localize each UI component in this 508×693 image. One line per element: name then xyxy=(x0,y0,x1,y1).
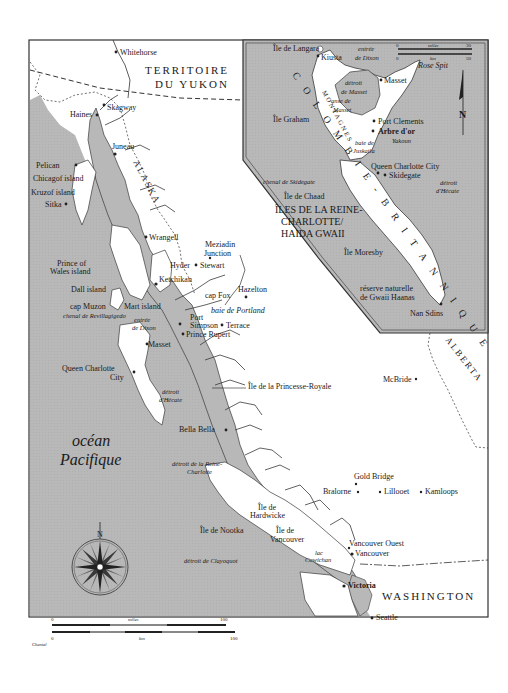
scale-miles-label: miles xyxy=(128,617,139,622)
label-haida-2: CHARLOTTE/ xyxy=(281,216,343,227)
main-scale-bar: 0 miles 100 0 km 100 xyxy=(51,617,238,641)
label-victoria: Victoria xyxy=(348,581,376,590)
inset-scale-km-end: 50 xyxy=(466,56,472,61)
label-baie-portland: baie de Portland xyxy=(211,306,266,315)
label-hecate-inset-2: d'Hécate xyxy=(436,187,459,194)
label-bralorne: Bralorne xyxy=(323,487,351,496)
inset-scale-miles-label: miles xyxy=(428,43,439,48)
label-pelican: Pelican xyxy=(36,161,60,170)
label-sitka: Sitka xyxy=(45,200,62,209)
label-gold-bridge: Gold Bridge xyxy=(354,472,394,481)
label-langara: Île de Langara xyxy=(273,43,320,53)
compass-north-label: N xyxy=(97,530,103,539)
label-ocean-2: Pacifique xyxy=(59,451,121,469)
label-hecate-inset-1: détroit xyxy=(440,179,457,186)
credit-label: Chantal xyxy=(32,642,47,647)
label-entree-2: de Dixon xyxy=(132,324,156,331)
label-cap-muzon: cap Muzon xyxy=(70,302,106,311)
inset-north-label: N xyxy=(459,109,467,120)
label-chenal-revillagigedo: chenal de Revillagigedo xyxy=(63,312,127,319)
label-yukon-2: DU YUKON xyxy=(155,78,229,90)
label-reine-2: Charlotte xyxy=(187,468,212,475)
scale-miles-start: 0 xyxy=(51,617,54,622)
label-vancouver-isl-2: Vancouver xyxy=(270,535,305,544)
map-canvas: 0 miles 30 0 km 50 N Île de Langara Kius… xyxy=(0,0,508,693)
scale-km-end: 100 xyxy=(230,636,238,641)
label-mcbride: McBride xyxy=(383,375,412,384)
label-pow-2: Wales island xyxy=(50,267,90,276)
label-ocean-1: océan xyxy=(72,432,110,449)
scale-km-label: km xyxy=(139,636,145,641)
label-nootka: Île de Nootka xyxy=(200,525,244,535)
label-reserve-1: réserve naturelle xyxy=(360,284,414,293)
label-whitehorse: Whitehorse xyxy=(120,48,157,57)
label-hecate-main-2: d'Hécate xyxy=(159,396,182,403)
label-dixon-inset-2: de Dixon xyxy=(355,54,379,61)
label-haida-3: HAIDA GWAII xyxy=(281,228,345,239)
label-dall: Dall island xyxy=(71,285,106,294)
label-kruzof: Kruzof island xyxy=(31,188,75,197)
label-junction: Junction xyxy=(204,249,231,258)
label-moresby: Île Moresby xyxy=(344,247,383,257)
label-chaad: Île de Chaad xyxy=(284,191,324,201)
label-rose-spit: Rose Spit xyxy=(417,61,449,70)
label-dixon-inset-1: entrée xyxy=(358,45,374,52)
label-qc-city-inset: Queen Charlotte City xyxy=(371,162,439,171)
label-princesse-royale: Île de la Princesse-Royale xyxy=(248,381,332,391)
label-yukon-1: TERRITOIRE xyxy=(145,64,229,76)
label-skidegate: Skidegate xyxy=(389,171,421,180)
inset-scale-miles-end: 30 xyxy=(466,43,472,48)
label-seattle: Seattle xyxy=(376,613,398,622)
label-graham: Île Graham xyxy=(273,114,310,124)
label-reserve-2: de Gwaii Haanas xyxy=(360,293,415,302)
label-kamloops: Kamloops xyxy=(425,487,458,496)
label-clayoquot: détroit de Clayoquot xyxy=(184,557,238,564)
label-chicagof: Chicagof island xyxy=(33,174,83,183)
label-washington: WASHINGTON xyxy=(382,590,475,602)
label-masset-main: Masset xyxy=(148,340,171,349)
label-stewart: Stewart xyxy=(200,261,225,270)
label-reine-1: détroit de la Reine- xyxy=(172,460,222,467)
label-qc-1: Queen Charlotte xyxy=(62,364,115,373)
label-prince-rupert: Prince Rupert xyxy=(186,330,231,339)
scale-miles-end: 100 xyxy=(220,617,228,622)
label-det-masset-1: détroit xyxy=(345,79,362,86)
label-mart-island: Mart island xyxy=(124,302,161,311)
label-vancouver: Vancouver xyxy=(355,549,390,558)
label-vancouver-ouest: Vancouver Ouest xyxy=(349,539,405,548)
label-cap-fox: cap Fox xyxy=(205,291,231,300)
label-hardwicke-2: Hardwicke xyxy=(250,511,286,520)
label-masset-inset: Masset xyxy=(384,76,407,85)
label-port-clements: Port Clements xyxy=(378,117,424,126)
label-hyder: Hyder xyxy=(170,261,190,270)
label-vancouver-isl-1: Île de xyxy=(276,525,294,535)
label-chenal-skidegate: chenal de Skidegate xyxy=(263,178,315,185)
label-kiusta: Kiusta xyxy=(321,53,342,62)
label-haines: Haines xyxy=(70,110,92,119)
label-lillooet: Lillooet xyxy=(384,487,410,496)
label-haida-1: ÎLES DE LA REINE- xyxy=(275,204,363,215)
label-yakoun: Yakoun xyxy=(392,137,411,144)
label-wrangell: Wrangell xyxy=(149,233,179,242)
label-hecate-main-1: détroit xyxy=(162,388,179,395)
label-det-masset-2: de Masset xyxy=(341,88,367,95)
label-terrace: Terrace xyxy=(226,321,250,330)
label-cowichan: Cowichan xyxy=(305,556,331,563)
label-juneau: Juneau xyxy=(112,142,134,151)
label-baie-1: baie de xyxy=(355,139,374,146)
label-skagway: Skagway xyxy=(107,103,136,112)
label-bella-bella: Bella Bella xyxy=(179,425,215,434)
label-nan-sdins: Nan Sdins xyxy=(410,309,443,318)
label-entree-1: entrée xyxy=(134,316,150,323)
label-ketchikan: Ketchikan xyxy=(159,275,192,284)
label-meziadin: Meziadin xyxy=(205,240,235,249)
label-hazelton: Hazelton xyxy=(238,285,267,294)
label-arbre-dor: Arbre d'or xyxy=(378,127,415,136)
label-lac: lac xyxy=(315,549,323,556)
scale-km-start: 0 xyxy=(51,636,54,641)
label-simpson: Simpson xyxy=(190,321,218,330)
label-qc-2: City xyxy=(110,373,124,382)
